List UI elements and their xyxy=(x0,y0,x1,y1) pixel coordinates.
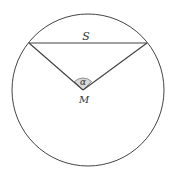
angle-label: α xyxy=(80,77,86,87)
circle-sector-diagram: S α M xyxy=(0,0,176,178)
center-label: M xyxy=(78,94,90,105)
radius-right xyxy=(83,43,147,90)
radius-left xyxy=(29,43,83,90)
chord-label: S xyxy=(82,30,90,43)
